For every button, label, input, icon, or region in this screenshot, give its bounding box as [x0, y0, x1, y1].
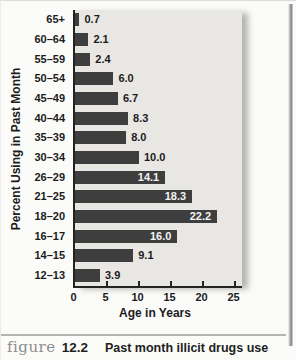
x-axis-title: Age in Years [74, 306, 236, 320]
bar [75, 33, 88, 46]
bar [75, 13, 79, 26]
value-label: 6.7 [123, 92, 138, 105]
value-label: 14.1 [75, 171, 159, 184]
value-label: 0.7 [84, 13, 99, 26]
x-tick-mark [234, 281, 236, 286]
value-label: 2.4 [95, 53, 110, 66]
x-tick-label: 0 [70, 291, 76, 303]
caption-text: Past month illicit drugs use [105, 341, 268, 355]
category-label: 40–44 [1, 112, 65, 125]
value-label: 9.1 [138, 249, 153, 262]
category-label: 45–49 [1, 92, 65, 105]
category-label: 35–39 [1, 131, 65, 144]
x-axis-ticks: 0510152025 [74, 291, 243, 304]
value-label: 2.1 [93, 33, 108, 46]
category-label: 26–29 [1, 171, 65, 184]
x-tick-label: 25 [227, 291, 239, 303]
value-label: 22.2 [75, 210, 211, 223]
x-tick-label: 10 [131, 291, 143, 303]
x-tick-mark [138, 281, 140, 286]
bar [75, 72, 113, 85]
x-tick-label: 5 [102, 291, 108, 303]
bar [75, 151, 139, 164]
x-tick-mark [202, 281, 204, 286]
caption-divider [1, 334, 286, 336]
caption-figure-word: figure [7, 338, 56, 356]
bar [75, 249, 133, 262]
value-label: 16.0 [75, 230, 171, 243]
bar [75, 92, 118, 105]
value-label: 10.0 [144, 151, 165, 164]
category-label: 30–34 [1, 151, 65, 164]
bar [75, 269, 100, 282]
value-label: 8.0 [131, 131, 146, 144]
x-tick-label: 15 [163, 291, 175, 303]
value-label: 8.3 [133, 112, 148, 125]
bar [75, 53, 90, 66]
category-label: 21–25 [1, 190, 65, 203]
x-tick-mark [106, 281, 108, 286]
caption-figure-number: 12.2 [62, 340, 88, 355]
category-label: 65+ [1, 13, 65, 26]
category-axis: 65+60–6455–5950–5445–4940–4435–3930–3426… [1, 10, 69, 286]
category-label: 18–20 [1, 210, 65, 223]
category-label: 50–54 [1, 72, 65, 85]
category-label: 12–13 [1, 269, 65, 282]
plot-area: 0.72.12.46.06.78.38.010.014.118.322.216.… [73, 10, 242, 288]
value-label: 18.3 [75, 190, 186, 203]
x-tick-mark [170, 281, 172, 286]
figure-caption: figure 12.2 Past month illicit drugs use [7, 338, 286, 356]
category-label: 60–64 [1, 33, 65, 46]
category-label: 16–17 [1, 230, 65, 243]
bar [75, 131, 126, 144]
figure-card: Percent Using in Past Month 65+60–6455–5… [0, 0, 296, 360]
value-label: 6.0 [118, 72, 133, 85]
x-tick-label: 20 [195, 291, 207, 303]
category-label: 14–15 [1, 249, 65, 262]
category-label: 55–59 [1, 53, 65, 66]
bar [75, 112, 128, 125]
page-edge-shadow [288, 4, 293, 346]
